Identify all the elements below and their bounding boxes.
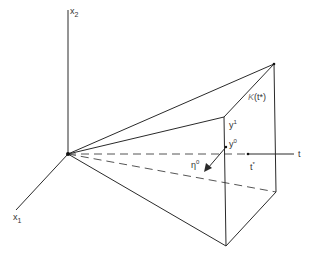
vertex-point bbox=[273, 63, 276, 66]
x1-label: x1 bbox=[13, 212, 22, 224]
x2-label: x2 bbox=[70, 6, 79, 18]
cone-diagram: x2 x1 t K(t*) y1 y0 η0 t* bbox=[0, 0, 312, 258]
section-edge-front bbox=[224, 117, 226, 246]
eta0-label: η0 bbox=[191, 159, 200, 170]
section-edge-top bbox=[224, 64, 274, 117]
t-label: t bbox=[298, 149, 301, 159]
y1-label: y1 bbox=[229, 119, 238, 130]
y0-point bbox=[225, 146, 227, 148]
t-star-point bbox=[247, 153, 250, 156]
eta0-vector bbox=[208, 147, 226, 168]
y0-label: y0 bbox=[229, 138, 238, 149]
t-star-label: t* bbox=[250, 161, 256, 172]
origin-point bbox=[66, 152, 70, 156]
cone-section-label: K(t*) bbox=[248, 92, 266, 102]
cone-edge-top bbox=[68, 64, 274, 154]
cone-edge-y1 bbox=[68, 117, 224, 154]
cone-edge-bottom bbox=[68, 154, 226, 246]
x1-axis bbox=[16, 154, 68, 210]
cone-edge-hidden bbox=[68, 154, 276, 192]
section-edge-right bbox=[274, 64, 276, 192]
section-edge-bottom bbox=[226, 192, 276, 246]
